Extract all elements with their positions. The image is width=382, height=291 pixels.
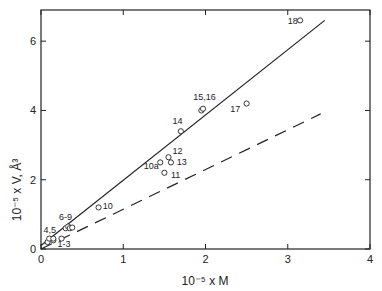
y-tick-label: 0 — [30, 243, 36, 255]
x-tick-label: 2 — [202, 253, 208, 265]
point-label: 4,5 — [43, 225, 56, 235]
x-tick-label: 4 — [367, 253, 373, 265]
x-tick-label: 1 — [120, 253, 126, 265]
point-label: 15,16 — [193, 92, 216, 102]
y-tick-label: 6 — [30, 35, 36, 47]
data-point — [51, 236, 56, 241]
point-label: 10 — [103, 201, 113, 211]
y-axis-label: 10⁻⁵ x V, Å³ — [9, 159, 24, 222]
data-point — [244, 101, 249, 106]
data-points — [45, 18, 303, 245]
point-label: 12 — [173, 146, 183, 156]
chart: 012340246 1-34,56-91010a1112131415,16171… — [0, 0, 382, 291]
plot-border — [41, 10, 370, 249]
data-point — [168, 160, 173, 165]
point-label: 17 — [230, 104, 240, 114]
point-label: 6-9 — [59, 212, 72, 222]
y-tick-label: 4 — [30, 104, 36, 116]
point-label: 10a — [144, 161, 159, 171]
x-axis-label: 10⁻⁵ x M — [182, 274, 229, 288]
data-point — [70, 225, 75, 230]
fit-lines — [41, 20, 325, 249]
data-point — [162, 170, 167, 175]
plot-frame — [41, 10, 370, 249]
data-point — [96, 205, 101, 210]
data-point — [297, 18, 302, 23]
x-tick-label: 3 — [285, 253, 291, 265]
data-point — [166, 155, 171, 160]
point-labels: 1-34,56-91010a1112131415,161718 — [43, 16, 297, 249]
point-label: 11 — [171, 170, 180, 180]
point-label: 18 — [288, 16, 298, 26]
data-point — [178, 129, 183, 134]
y-tick-label: 2 — [30, 174, 36, 186]
point-label: 14 — [173, 116, 183, 126]
axis-ticks: 012340246 — [30, 10, 373, 265]
point-label: 1-3 — [57, 239, 70, 249]
point-label: 13 — [177, 157, 187, 167]
x-tick-label: 0 — [38, 253, 44, 265]
data-point — [200, 106, 205, 111]
